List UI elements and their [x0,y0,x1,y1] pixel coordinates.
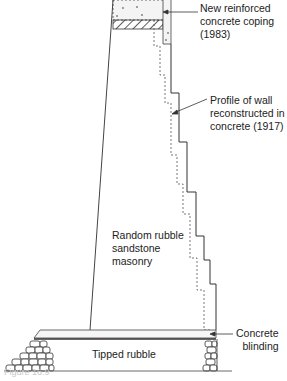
reconstructed-profile [171,44,216,330]
figure-caption: Figure 16.9 [4,367,50,377]
concrete-coping [113,0,171,44]
label-line: Concrete [236,327,279,340]
label-line: blinding [236,340,279,353]
label-line: Random rubble [112,229,184,242]
label-rubble: Tipped rubble [92,348,156,361]
label-line: concrete coping [200,15,274,28]
concrete-blinding [34,330,216,339]
label-masonry: Random rubble sandstone masonry [112,229,184,268]
leader-lines [163,10,233,336]
label-line: (1983) [200,28,274,41]
label-line: concrete (1917) [210,120,285,133]
original-profile [154,20,210,330]
label-line: masonry [112,255,184,268]
label-line: reconstructed in [210,107,285,120]
label-coping: New reinforced concrete coping (1983) [200,2,274,41]
label-line: Profile of wall [210,94,285,107]
label-line: New reinforced [200,2,274,15]
wall-section-drawing [0,0,287,381]
label-blinding: Concrete blinding [236,327,279,353]
label-line: sandstone [112,242,184,255]
rubble-stones-right [203,339,217,371]
wall-face-line [90,0,113,330]
label-profile: Profile of wall reconstructed in concret… [210,94,285,133]
